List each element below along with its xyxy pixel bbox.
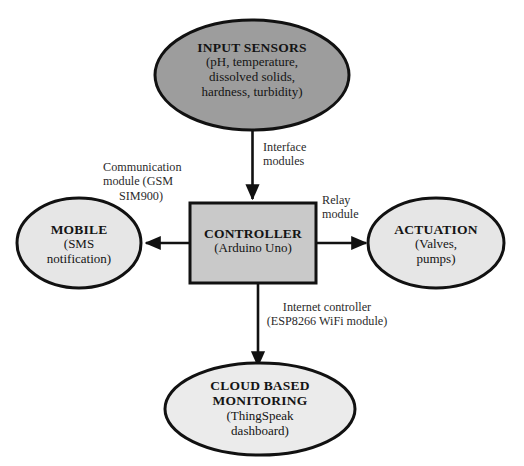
diagram-shapes-layer xyxy=(0,0,524,466)
diagram-canvas: INPUT SENSORS (pH, temperature, dissolve… xyxy=(0,0,524,466)
node-actuation xyxy=(368,198,504,288)
node-cloud-monitoring xyxy=(165,363,355,455)
node-controller xyxy=(190,203,316,283)
node-input-sensors xyxy=(155,20,349,130)
node-mobile xyxy=(17,198,141,288)
